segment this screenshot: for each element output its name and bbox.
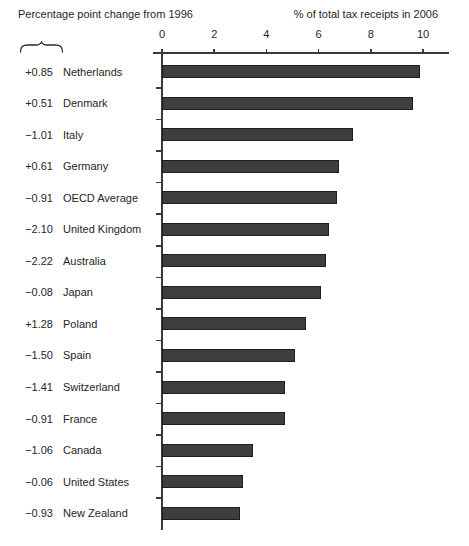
chart-row-label: −1.06Canada [14,444,162,456]
x-axis-tick-label: 4 [263,28,269,41]
y-axis-row-tick [156,340,162,342]
country-name: Netherlands [63,66,122,78]
country-name: Italy [63,129,83,141]
x-axis-tick [213,49,215,54]
y-axis-row-tick [156,87,162,89]
x-axis-tick-label: 10 [417,28,429,41]
bar [162,65,420,78]
country-name: Denmark [63,97,108,109]
country-name: United Kingdom [63,223,141,235]
bar [162,286,321,299]
x-axis-tick-label: 0 [159,28,165,41]
y-axis-row-tick [156,403,162,405]
x-axis-tick-label: 6 [316,28,322,41]
change-value: −1.41 [14,381,53,393]
chart-row-label: −0.91OECD Average [14,192,162,204]
country-name: United States [63,476,129,488]
chart-row-label: +0.61Germany [14,160,162,172]
chart-row-label: −1.41Switzerland [14,381,162,393]
change-value: −0.06 [14,476,53,488]
y-axis-row-tick [156,371,162,373]
bar [162,507,240,520]
chart-row-label: −0.91France [14,413,162,425]
chart-row-label: −2.10United Kingdom [14,223,162,235]
x-axis-tick-label: 2 [211,28,217,41]
country-name: Australia [63,255,106,267]
bar [162,223,329,236]
right-axis-title: % of total tax receipts in 2006 [294,8,438,21]
bar [162,160,339,173]
change-value: +1.28 [14,318,53,330]
y-axis-row-tick [156,466,162,468]
chart-row-label: +0.51Denmark [14,97,162,109]
change-value: −2.10 [14,223,53,235]
bar [162,444,253,457]
chart-row-label: −0.08Japan [14,286,162,298]
chart-row-label: −2.22Australia [14,255,162,267]
y-axis-row-tick [156,150,162,152]
country-name: Japan [63,286,93,298]
bar [162,412,285,425]
bar [162,191,337,204]
y-axis-row-tick [156,277,162,279]
country-name: OECD Average [63,192,138,204]
x-axis-tick [161,49,163,54]
country-name: Poland [63,318,97,330]
chart-row-label: −1.01Italy [14,129,162,141]
change-value: +0.51 [14,97,53,109]
x-axis-tick [370,49,372,54]
y-axis-row-tick [156,308,162,310]
change-value: +0.85 [14,66,53,78]
brace-icon [19,41,64,54]
x-axis-tick-label: 8 [368,28,374,41]
tax-receipts-bar-chart: Percentage point change from 1996 % of t… [0,0,469,546]
y-axis-row-tick [156,434,162,436]
change-value: −1.50 [14,349,53,361]
country-name: Switzerland [63,381,120,393]
country-name: Spain [63,349,91,361]
change-value: −1.06 [14,444,53,456]
x-axis-tick [422,49,424,54]
bar [162,317,306,330]
y-axis-row-tick [156,213,162,215]
change-value: +0.61 [14,160,53,172]
country-name: France [63,413,97,425]
left-axis-title: Percentage point change from 1996 [18,8,193,21]
bar [162,381,285,394]
change-value: −0.91 [14,192,53,204]
bar [162,97,413,110]
change-value: −0.91 [14,413,53,425]
y-axis-row-tick [156,497,162,499]
bar [162,254,326,267]
change-value: −1.01 [14,129,53,141]
y-axis-row-tick [156,182,162,184]
country-name: Germany [63,160,108,172]
bar [162,349,295,362]
x-axis-tick [318,49,320,54]
x-axis-line [153,52,449,54]
y-axis-row-tick [156,245,162,247]
chart-row-label: −1.50Spain [14,349,162,361]
chart-row-label: −0.06United States [14,476,162,488]
chart-row-label: +1.28Poland [14,318,162,330]
change-value: −2.22 [14,255,53,267]
bar [162,128,353,141]
country-name: Canada [63,444,102,456]
change-value: −0.93 [14,507,53,519]
x-axis-tick [266,49,268,54]
y-axis-row-tick [156,119,162,121]
chart-row-label: −0.93New Zealand [14,507,162,519]
change-value: −0.08 [14,286,53,298]
bar [162,475,243,488]
country-name: New Zealand [63,507,128,519]
chart-row-label: +0.85Netherlands [14,66,162,78]
